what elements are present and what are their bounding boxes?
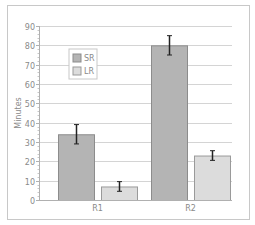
legend-label-lr: LR: [84, 67, 94, 76]
legend-swatch-lr: [73, 67, 81, 75]
bar-sr-r2: [152, 46, 188, 201]
legend-swatch-sr: [73, 54, 81, 62]
y-tick-label: 70: [25, 62, 35, 71]
y-tick-label: 40: [25, 120, 35, 129]
y-tick-label: 60: [25, 81, 35, 90]
x-category-label: R1: [92, 204, 103, 213]
y-tick-label: 20: [25, 158, 35, 167]
x-axis: R1R2: [39, 201, 232, 214]
y-tick-label: 50: [25, 100, 35, 109]
bar-lr-r2: [195, 156, 231, 200]
x-category-label: R2: [185, 204, 196, 213]
y-tick-label: 90: [25, 23, 35, 32]
y-axis: 0102030405060708090: [25, 23, 40, 206]
bar-chart: 0102030405060708090 R1R2 Minutes SR LR: [0, 0, 255, 225]
y-axis-title: Minutes: [14, 97, 23, 129]
y-tick-label: 30: [25, 139, 35, 148]
legend: SR LR: [69, 49, 97, 79]
y-tick-label: 10: [25, 178, 35, 187]
y-tick-label: 80: [25, 42, 35, 51]
bar-sr-r1: [59, 135, 95, 201]
y-tick-label: 0: [30, 197, 35, 206]
legend-label-sr: SR: [84, 54, 95, 63]
